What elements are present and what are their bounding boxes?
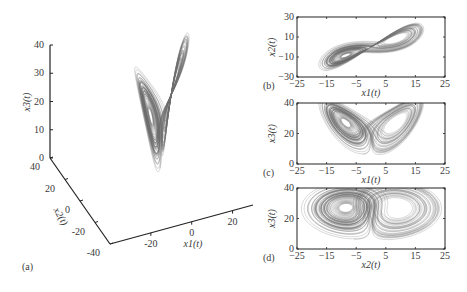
panel-a-z-tick-label: 30 [34, 67, 44, 78]
panel-a-y-tick [95, 222, 98, 223]
panel-a-z-tick-label: 40 [34, 39, 44, 50]
panel-d-x-tick-label: 15 [410, 250, 420, 261]
panel-b-ylabel: x2(t) [266, 37, 278, 58]
panel-a-3d-plot: 010203040-40-2002040-20020 x3(t) x2(t) x… [21, 33, 253, 273]
panel-a-y-tick-label: -40 [87, 247, 100, 258]
panel-d-trajectory [301, 181, 441, 239]
panel-d-x-tick-label: −5 [351, 250, 362, 261]
panel-d-ylabel: x3(t) [266, 208, 278, 229]
lorenz-figure: 010203040-40-2002040-20020 x3(t) x2(t) x… [0, 0, 467, 292]
panel-a-y-tick-label: 20 [45, 183, 55, 194]
panel-b-x-tick-label: 25 [440, 78, 450, 89]
panel-a-x-tick-label: -20 [144, 238, 157, 249]
panel-a-y-tick-label: -20 [72, 226, 85, 237]
panel-b-y-tick-label: −10 [278, 51, 294, 62]
panel-d-y-tick-label: 40 [284, 182, 294, 193]
panel-a-y-tick [80, 200, 83, 201]
panel-d-x2-x3-projection: −25−15−55152540200x2(t)x3(t)(d) [263, 181, 450, 271]
panel-a-z-tick-label: 20 [34, 96, 44, 107]
panel-c-x-tick-label: 25 [440, 165, 450, 176]
panel-a-trajectory [135, 33, 189, 172]
panel-b-xlabel: x1(t) [361, 87, 382, 99]
panel-d-x-tick-label: 5 [383, 250, 388, 261]
panel-c-x-tick-label: 15 [410, 165, 420, 176]
panel-d-y-tick-label: 20 [284, 213, 294, 224]
panel-c-trajectory [319, 96, 424, 154]
panel-b-label: (b) [263, 80, 275, 92]
panel-c-ylabel: x3(t) [266, 123, 278, 144]
panel-a-z-tick-label: 10 [34, 124, 44, 135]
panel-a-label: (a) [22, 261, 33, 273]
panel-d-x-tick-label: 25 [440, 250, 450, 261]
panel-c-x1-x3-projection: −25−15−55152540200x1(t)x3(t)(c) [263, 96, 450, 186]
panel-b-x-tick-label: −15 [319, 78, 335, 89]
panel-b-x-tick-label: 15 [410, 78, 420, 89]
panel-a-x-tick-label: 0 [189, 227, 194, 238]
panel-b-x-tick-label: −5 [351, 78, 362, 89]
panel-c-label: (c) [263, 167, 274, 179]
panel-b-y-tick-label: 30 [284, 11, 294, 22]
panel-c-x-tick-label: 5 [383, 165, 388, 176]
panel-c-y-tick-label: 0 [289, 158, 294, 169]
panel-c-xlabel: x1(t) [361, 174, 382, 186]
panel-a-y-tick [65, 179, 68, 180]
panel-b-trajectory [319, 23, 424, 70]
panel-c-x-tick-label: −5 [351, 165, 362, 176]
panel-b-x-tick-label: 5 [383, 78, 388, 89]
panel-b-y-tick-label: 10 [284, 31, 294, 42]
panel-d-x-tick-label: −15 [319, 250, 335, 261]
panel-d-label: (d) [263, 252, 275, 264]
panel-a-y-tick-label: 40 [30, 161, 40, 172]
panel-b-x1-x2-projection: −25−15−5515253010−10−30x1(t)x2(t)(b) [263, 11, 450, 99]
panel-c-y-tick-label: 40 [284, 97, 294, 108]
panel-b-y-tick-label: −30 [278, 71, 294, 82]
panel-c-x-tick-label: −15 [319, 165, 335, 176]
panel-d-xlabel: x2(t) [361, 259, 382, 271]
panel-a-zlabel: x3(t) [21, 92, 33, 113]
panel-c-y-tick-label: 20 [284, 128, 294, 139]
panel-d-y-tick-label: 0 [289, 243, 294, 254]
panel-a-xlabel: x1(t) [183, 238, 204, 250]
panel-a-x-tick-label: 20 [228, 216, 238, 227]
